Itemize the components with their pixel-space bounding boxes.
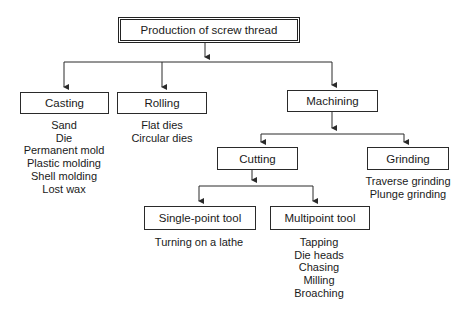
rolling-methods-list: Flat dies Circular dies bbox=[112, 119, 212, 144]
node-label: Single-point tool bbox=[159, 212, 241, 224]
node-label: Casting bbox=[45, 97, 84, 109]
node-grinding: Grinding bbox=[367, 147, 449, 170]
list-item: Sand bbox=[14, 119, 114, 132]
node-label: Rolling bbox=[144, 97, 179, 109]
node-rolling: Rolling bbox=[117, 92, 207, 114]
node-machining: Machining bbox=[287, 90, 378, 112]
node-label: Grinding bbox=[386, 153, 429, 165]
single-point-methods-list: Turning on a lathe bbox=[139, 236, 259, 249]
node-multipoint-tool: Multipoint tool bbox=[270, 206, 370, 230]
node-cutting: Cutting bbox=[217, 147, 298, 170]
list-item: Milling bbox=[269, 274, 369, 287]
list-item: Broaching bbox=[269, 287, 369, 300]
list-item: Circular dies bbox=[112, 132, 212, 145]
multipoint-methods-list: Tapping Die heads Chasing Milling Broach… bbox=[269, 236, 369, 300]
casting-methods-list: Sand Die Permanent mold Plastic molding … bbox=[14, 119, 114, 195]
list-item: Lost wax bbox=[14, 183, 114, 196]
node-single-point-tool: Single-point tool bbox=[144, 206, 256, 230]
list-item: Traverse grinding bbox=[358, 175, 458, 188]
list-item: Die bbox=[14, 132, 114, 145]
node-label: Multipoint tool bbox=[285, 212, 356, 224]
list-item: Flat dies bbox=[112, 119, 212, 132]
list-item: Plunge grinding bbox=[358, 188, 458, 201]
list-item: Permanent mold bbox=[14, 144, 114, 157]
list-item: Chasing bbox=[269, 261, 369, 274]
list-item: Tapping bbox=[269, 236, 369, 249]
list-item: Turning on a lathe bbox=[139, 236, 259, 249]
node-label: Machining bbox=[306, 95, 358, 107]
list-item: Shell molding bbox=[14, 170, 114, 183]
node-casting: Casting bbox=[20, 92, 109, 114]
list-item: Plastic molding bbox=[14, 157, 114, 170]
list-item: Die heads bbox=[269, 249, 369, 262]
node-production-of-screw-thread: Production of screw thread bbox=[120, 19, 298, 41]
node-label: Cutting bbox=[239, 153, 275, 165]
node-label: Production of screw thread bbox=[141, 24, 278, 36]
grinding-methods-list: Traverse grinding Plunge grinding bbox=[358, 175, 458, 200]
